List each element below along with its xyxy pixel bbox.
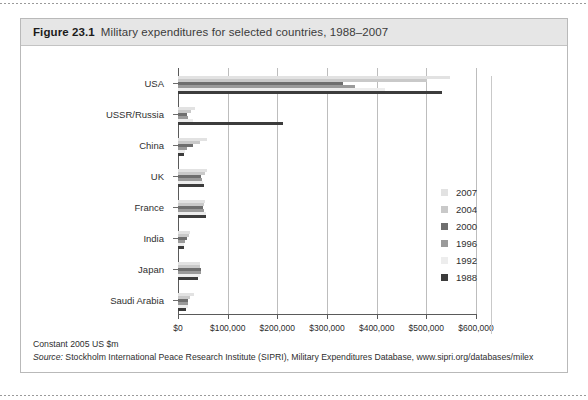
y-axis-label-saudi-arabia: Saudi Arabia	[110, 294, 164, 305]
x-axis-tick-label: $400,000	[359, 323, 394, 333]
figure-number: Figure 23.1	[33, 26, 95, 38]
chart-bar	[178, 215, 206, 218]
legend-label: 1992	[456, 255, 477, 266]
legend-label: 2000	[456, 221, 477, 232]
x-gridline	[228, 68, 229, 315]
x-gridline	[327, 68, 328, 315]
legend-item-1992[interactable]: 1992	[441, 252, 521, 269]
legend-swatch-icon	[441, 189, 448, 196]
legend-label: 1988	[456, 272, 477, 283]
x-gridline	[277, 68, 278, 315]
chart-bar	[178, 308, 186, 311]
legend-item-2004[interactable]: 2004	[441, 201, 521, 218]
y-axis-label-china: China	[139, 140, 164, 151]
figure-units: Constant 2005 US $m	[33, 339, 558, 349]
figure-source: Source: Stockholm International Peace Re…	[33, 352, 558, 362]
chart-axes: $0$100,000$200,000$300,000$400,000$500,0…	[178, 68, 476, 333]
chart-bar	[178, 277, 198, 280]
x-axis-tick	[476, 314, 477, 319]
x-gridline	[377, 68, 378, 315]
figure-title: Military expenditures for selected count…	[101, 26, 388, 38]
legend-swatch-icon	[441, 257, 448, 264]
x-axis-tick	[327, 314, 328, 319]
y-axis-label-usa: USA	[144, 78, 164, 89]
y-axis-label-japan: Japan	[138, 263, 164, 274]
legend-label: 1996	[456, 238, 477, 249]
x-axis-tick-label: $500,000	[409, 323, 444, 333]
legend-item-2000[interactable]: 2000	[441, 218, 521, 235]
page-top-rule	[0, 3, 588, 4]
y-axis-label-ussr-russia: USSR/Russia	[106, 109, 164, 120]
chart-legend: 200720042000199619921988	[441, 184, 521, 286]
chart-bar	[178, 91, 442, 94]
source-text: Stockholm International Peace Research I…	[63, 352, 533, 362]
legend-item-1996[interactable]: 1996	[441, 235, 521, 252]
x-axis-tick	[426, 314, 427, 319]
x-gridline	[426, 68, 427, 315]
figure-footer: Constant 2005 US $m Source: Stockholm In…	[33, 339, 558, 362]
source-label: Source:	[33, 352, 63, 362]
legend-swatch-icon	[441, 240, 448, 247]
chart-plot-area: USAUSSR/RussiaChinaUKFranceIndiaJapanSau…	[21, 46, 569, 334]
legend-swatch-icon	[441, 206, 448, 213]
x-axis-tick-label: $0	[173, 323, 182, 333]
chart-bar	[178, 122, 283, 125]
page-bottom-rule	[0, 395, 588, 396]
figure-page: Figure 23.1 Military expenditures for se…	[0, 0, 588, 400]
x-axis-tick-label: $300,000	[309, 323, 344, 333]
legend-item-1988[interactable]: 1988	[441, 269, 521, 286]
y-axis-label-india: India	[143, 232, 164, 243]
x-axis-tick	[178, 314, 179, 319]
legend-label: 2007	[456, 187, 477, 198]
x-axis-tick-label: $200,000	[260, 323, 295, 333]
y-axis-label-france: France	[134, 201, 164, 212]
y-axis-labels: USAUSSR/RussiaChinaUKFranceIndiaJapanSau…	[21, 68, 173, 333]
legend-label: 2004	[456, 204, 477, 215]
chart-bar	[178, 246, 184, 249]
x-axis-tick	[377, 314, 378, 319]
chart-bar	[178, 153, 184, 156]
x-axis-tick	[277, 314, 278, 319]
legend-item-2007[interactable]: 2007	[441, 184, 521, 201]
x-axis-tick	[228, 314, 229, 319]
figure-box: Figure 23.1 Military expenditures for se…	[20, 18, 568, 373]
figure-header: Figure 23.1 Military expenditures for se…	[21, 19, 567, 46]
y-axis-label-uk: UK	[151, 171, 164, 182]
x-axis-tick-label: $600,000	[458, 323, 493, 333]
legend-swatch-icon	[441, 274, 448, 281]
chart-bar	[178, 184, 204, 187]
x-axis-tick-label: $100,000	[210, 323, 245, 333]
legend-swatch-icon	[441, 223, 448, 230]
